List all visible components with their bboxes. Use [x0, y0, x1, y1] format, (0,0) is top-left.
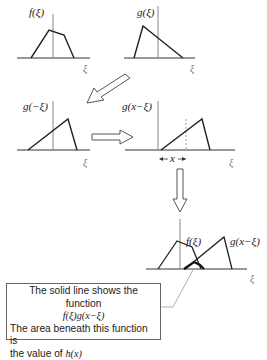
product-g-label: g(x−ξ): [230, 235, 260, 248]
xi-axis-label: ξ: [250, 273, 255, 285]
panel-product: f(ξ) g(x−ξ) ξ: [146, 219, 260, 307]
callout-line-1: The solid line shows the function: [10, 285, 157, 310]
callout-line-4-text: the value of: [10, 348, 66, 359]
f-label: f(ξ): [29, 6, 44, 19]
callout-leader-line: [161, 270, 193, 307]
shift-indicator: x: [159, 152, 186, 164]
callout-line-3: The area beneath this function is: [10, 323, 157, 348]
panel-g-shifted: g(x−ξ) ξ x: [122, 100, 235, 169]
xi-axis-label: ξ: [190, 63, 195, 75]
callout-box: The solid line shows the function f(ξ)g(…: [6, 283, 161, 340]
panel-f: f(ξ) ξ: [17, 6, 90, 75]
panel-g-reflected: g(−ξ) ξ: [17, 100, 90, 169]
g-label: g(ξ): [137, 6, 155, 19]
product-f-label: f(ξ): [186, 235, 201, 248]
arrow-down-left-icon: [87, 74, 130, 103]
shift-x-label: x: [169, 152, 175, 164]
g-reflected-label: g(−ξ): [23, 100, 48, 113]
g-shifted-label: g(x−ξ): [122, 100, 152, 113]
callout-line-4: the value of h(x): [10, 348, 157, 360]
arrow-right-icon: [92, 130, 133, 144]
panel-g: g(ξ) ξ: [124, 6, 195, 75]
xi-axis-label: ξ: [83, 157, 88, 169]
callout-formula: f(ξ)g(x−ξ): [10, 310, 157, 323]
xi-axis-label: ξ: [83, 63, 88, 75]
arrow-down-icon: [173, 169, 187, 212]
callout-hx: h(x): [66, 348, 82, 359]
xi-axis-label: ξ: [229, 157, 234, 169]
